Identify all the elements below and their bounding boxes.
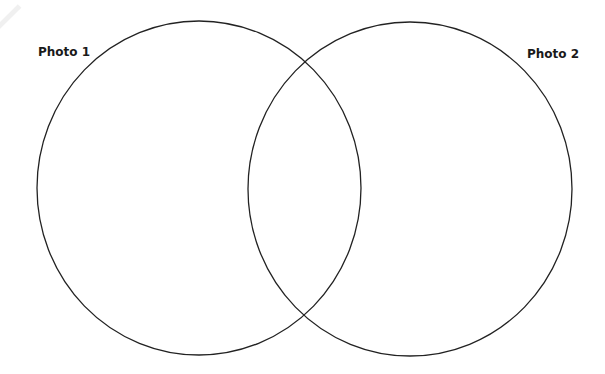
venn-circle-photo-2 <box>248 22 572 356</box>
venn-circle-photo-1 <box>37 21 361 355</box>
set-label-photo-1: Photo 1 <box>38 45 90 59</box>
venn-diagram <box>0 0 605 374</box>
set-label-photo-2: Photo 2 <box>527 47 579 61</box>
